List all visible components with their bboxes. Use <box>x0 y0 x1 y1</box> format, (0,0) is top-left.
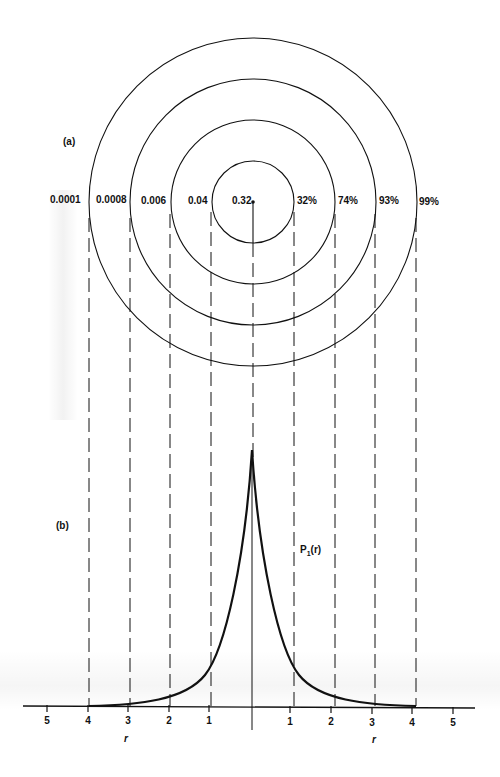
panel-a-label: (a) <box>63 137 75 147</box>
ring-value-4: 0.0001 <box>50 195 81 205</box>
ring-percent-2: 74% <box>338 196 358 206</box>
tick-left-1: 1 <box>206 716 212 726</box>
center-value: 0.32 <box>232 196 251 206</box>
tick-right-1: 1 <box>287 717 293 727</box>
ring-value-3: 0.0008 <box>96 195 127 205</box>
tick-right-5: 5 <box>450 718 456 728</box>
diagram-graphics <box>0 0 500 777</box>
curve-label-main: P <box>300 544 307 555</box>
tick-right-4: 4 <box>409 718 415 728</box>
tick-left-2: 2 <box>166 716 172 726</box>
ring-percent-1: 32% <box>297 196 317 206</box>
axis-name-right: r <box>372 735 376 745</box>
axis-name-left: r <box>124 734 128 744</box>
ring-value-1: 0.04 <box>188 196 207 206</box>
tick-left-5: 5 <box>44 716 50 726</box>
ring-percent-3: 93% <box>379 196 399 206</box>
panel-b-label: (b) <box>56 521 69 531</box>
curve-label: P1(r) <box>300 545 321 557</box>
ring-percent-4: 99% <box>419 197 439 207</box>
tick-left-4: 4 <box>85 716 91 726</box>
tick-right-3: 3 <box>369 718 375 728</box>
curve-label-arg: (r) <box>311 544 322 555</box>
ring-value-2: 0.006 <box>141 196 166 206</box>
tick-left-3: 3 <box>125 716 131 726</box>
tick-right-2: 2 <box>328 717 334 727</box>
orbital-diagram: (a) (b) 0.0001 0.0008 0.006 0.04 0.32 32… <box>0 0 500 777</box>
